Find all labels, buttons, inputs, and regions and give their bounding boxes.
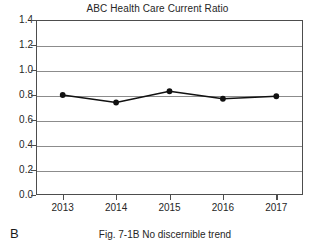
- y-axis-tick-label: 0.2: [3, 165, 33, 175]
- panel-label: B: [10, 226, 19, 241]
- y-axis-tick-label: 0.8: [3, 90, 33, 100]
- plot-area: [36, 20, 303, 195]
- y-axis-tick-label: 0.0: [3, 190, 33, 200]
- figure-caption: Fig. 7-1B No discernible trend: [40, 228, 290, 241]
- gridline: [37, 121, 302, 122]
- y-axis-tick-label: 1.0: [3, 65, 33, 75]
- x-axis-tick-label: 2016: [200, 202, 246, 214]
- chart-title: ABC Health Care Current Ratio: [0, 2, 315, 15]
- gridline: [37, 96, 302, 97]
- gridline: [37, 146, 302, 147]
- y-axis-labels: 1.41.21.00.80.60.40.20.0: [0, 20, 33, 195]
- x-axis-tick-mark: [63, 195, 64, 200]
- x-axis-labels: 20132014201520162017: [36, 202, 303, 216]
- x-axis-tick-mark: [223, 195, 224, 200]
- y-axis-tick-label: 1.2: [3, 40, 33, 50]
- y-axis-tick-label: 1.4: [3, 15, 33, 25]
- gridline: [37, 71, 302, 72]
- x-axis-tick-marks: [36, 195, 303, 201]
- x-axis-tick-label: 2017: [253, 202, 299, 214]
- gridline: [37, 171, 302, 172]
- x-axis-tick-mark: [116, 195, 117, 200]
- x-axis-tick-mark: [276, 195, 277, 200]
- x-axis-tick-label: 2015: [147, 202, 193, 214]
- gridline: [37, 46, 302, 47]
- y-axis-tick-label: 0.4: [3, 140, 33, 150]
- x-axis-tick-label: 2013: [40, 202, 86, 214]
- x-axis-tick-label: 2014: [93, 202, 139, 214]
- figure-container: ABC Health Care Current Ratio 1.41.21.00…: [0, 0, 315, 250]
- y-axis-tick-label: 0.6: [3, 115, 33, 125]
- x-axis-tick-mark: [170, 195, 171, 200]
